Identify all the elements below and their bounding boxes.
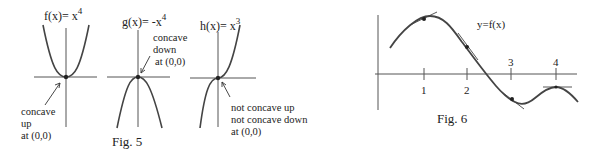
arrow-line bbox=[141, 56, 150, 73]
annotation-line-1: concave bbox=[21, 106, 56, 117]
curve-g bbox=[117, 77, 162, 128]
annotation-line-2: not concave down bbox=[231, 114, 308, 125]
function-label-g: g(x)= -x4 bbox=[122, 12, 167, 29]
annotation-line-3: at (0,0) bbox=[155, 56, 186, 68]
tick-label-1: 1 bbox=[421, 84, 427, 96]
figures-canvas: f(x)= x4 concave up at (0,0) g(x)= -x4 c… bbox=[0, 0, 601, 153]
arrow-line bbox=[45, 83, 60, 105]
annotation-line-3: at (0,0) bbox=[21, 130, 52, 142]
annotation-line-1: not concave up bbox=[231, 102, 295, 113]
origin-point bbox=[64, 75, 68, 79]
arrow-line bbox=[222, 82, 230, 97]
annotation-line-2: up bbox=[21, 118, 32, 129]
point-x2 bbox=[465, 45, 469, 49]
fig5-caption: Fig. 5 bbox=[112, 134, 142, 149]
annotation-line-3: at (0,0) bbox=[231, 126, 262, 138]
fig6: 1 2 3 4 y=f(x) Fig. 6 bbox=[375, 12, 578, 126]
tick-label-4: 4 bbox=[553, 56, 559, 68]
curve-label: y=f(x) bbox=[477, 18, 506, 31]
tick-label-2: 2 bbox=[464, 84, 470, 96]
origin-point bbox=[136, 75, 140, 79]
annotation-line-2: down bbox=[153, 44, 177, 55]
annotation-line-1: concave bbox=[153, 32, 188, 43]
tick-label-3: 3 bbox=[508, 56, 514, 68]
fig5-panel-f: f(x)= x4 concave up at (0,0) bbox=[21, 6, 97, 142]
origin-point bbox=[216, 76, 220, 80]
function-label-h: h(x)= x3 bbox=[200, 16, 241, 33]
point-x4 bbox=[554, 85, 557, 88]
point-x1 bbox=[422, 17, 426, 21]
function-label-f: f(x)= x4 bbox=[44, 6, 83, 23]
fig5-panel-h: h(x)= x3 not concave up not concave down… bbox=[190, 16, 308, 138]
fig6-caption: Fig. 6 bbox=[437, 111, 468, 126]
point-x3 bbox=[510, 97, 514, 101]
fig5-panel-g: g(x)= -x4 concave down at (0,0) bbox=[107, 12, 188, 128]
